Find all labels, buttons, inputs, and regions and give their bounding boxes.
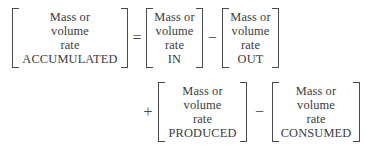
term-produced-line-2: volume (184, 98, 222, 112)
term-out-line-1: Mass or (230, 10, 270, 24)
equation-figure: Mass or volume rate ACCUMULATED = Mass o… (0, 0, 371, 153)
term-produced-line-3: rate (193, 112, 212, 126)
term-consumed-line-2: volume (297, 98, 335, 112)
term-accumulated-line-4: ACCUMULATED (22, 52, 117, 66)
term-produced-line-4: PRODUCED (169, 126, 237, 140)
equals-operator: = (128, 7, 146, 69)
term-in-line-3: rate (165, 38, 184, 52)
term-out-line-2: volume (232, 24, 270, 38)
term-accumulated-line-3: rate (61, 38, 80, 52)
term-accumulated-line-2: volume (51, 24, 89, 38)
equation-row-2: + Mass or volume rate PRODUCED − Mass or… (138, 80, 360, 144)
term-accumulated-line-1: Mass or (50, 10, 90, 24)
term-in-line-2: volume (156, 24, 194, 38)
term-produced: Mass or volume rate PRODUCED (158, 81, 247, 143)
equation-row-1: Mass or volume rate ACCUMULATED = Mass o… (12, 6, 279, 70)
plus-operator: + (138, 81, 158, 143)
term-out-line-3: rate (241, 38, 260, 52)
term-consumed: Mass or volume rate CONSUMED (272, 81, 360, 143)
minus-operator-2: − (247, 81, 272, 143)
term-in: Mass or volume rate IN (146, 7, 203, 69)
term-consumed-line-1: Mass or (296, 84, 336, 98)
term-accumulated: Mass or volume rate ACCUMULATED (12, 7, 128, 69)
term-consumed-line-3: rate (307, 112, 326, 126)
term-out: Mass or volume rate OUT (222, 7, 279, 69)
term-in-line-1: Mass or (154, 10, 194, 24)
term-in-line-4: IN (168, 52, 181, 66)
term-produced-line-1: Mass or (182, 84, 222, 98)
term-out-line-4: OUT (238, 52, 264, 66)
term-consumed-line-4: CONSUMED (281, 126, 352, 140)
minus-operator-1: − (203, 7, 222, 69)
